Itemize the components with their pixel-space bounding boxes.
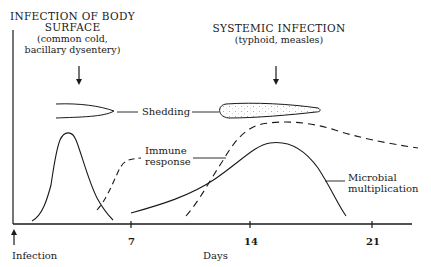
label-microbial-2: multiplication bbox=[348, 183, 418, 194]
body-surface-down-arrow-icon bbox=[76, 66, 82, 85]
curve-systemic-immune bbox=[186, 122, 418, 216]
label-immune-1: Immune bbox=[145, 145, 187, 156]
curve-body-surface-immune bbox=[97, 158, 141, 210]
diagram-canvas bbox=[0, 0, 431, 267]
x-axis-label: Days bbox=[203, 250, 228, 261]
infection-arrow-icon bbox=[11, 229, 17, 245]
tick-label-14: 14 bbox=[244, 236, 258, 247]
label-shedding: Shedding bbox=[142, 106, 190, 117]
tick-label-7: 7 bbox=[128, 236, 135, 247]
shedding-shape-systemic bbox=[220, 103, 321, 118]
shedding-shape-body-surface bbox=[56, 104, 114, 118]
infection-label: Infection bbox=[12, 250, 57, 261]
tick-label-21: 21 bbox=[366, 236, 380, 247]
label-immune-2: response bbox=[145, 156, 191, 167]
label-microbial-1: Microbial bbox=[348, 172, 397, 183]
systemic-down-arrow-icon bbox=[273, 66, 279, 85]
curve-body-surface-microbial bbox=[32, 133, 113, 221]
